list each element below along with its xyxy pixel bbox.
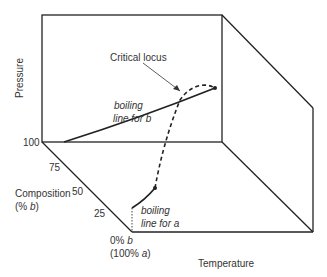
boiling-a-label-line2: line for a [141,218,179,229]
boiling-b-label-line2: line for b [113,113,151,124]
composition-axis [42,142,132,232]
composition-label-line1: Composition [15,188,71,199]
origin-label-line1: 0% b [110,235,133,246]
top-depth-edge [222,15,313,108]
boiling-b-label-line1: boiling [114,100,143,111]
boiling-a-label-line1: boiling [141,205,170,216]
critical-point-a [153,186,157,190]
tick-50: 50 [72,186,83,197]
temperature-axis-label: Temperature [198,258,254,269]
composition-label-line2: (% b) [15,201,39,212]
phase-diagram-3d [0,0,327,277]
bottom-right-depth-edge [222,142,313,232]
tick-75: 75 [49,162,60,173]
critical-locus-label: Critical locus [110,52,167,63]
critical-point-b [213,86,217,90]
arrow-head-icon [173,85,180,91]
origin-label-line2: (100% a) [110,248,151,259]
tick-100: 100 [23,137,40,148]
critical-locus-pointer [143,63,180,91]
pressure-axis-label: Pressure [14,58,25,98]
tick-25: 25 [94,208,105,219]
